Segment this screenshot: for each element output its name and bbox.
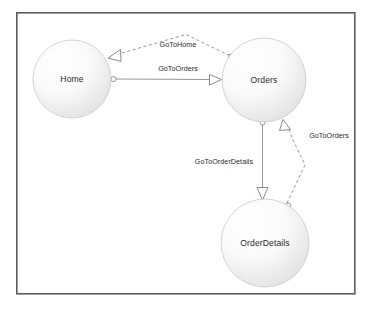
edge-orders-to-orderdetails[interactable]: GoToOrderDetails	[195, 120, 268, 200]
edge-label-gotohome: GoToHome	[160, 40, 197, 49]
edge-arrowhead-icon	[108, 50, 121, 62]
node-orders-label: Orders	[251, 75, 278, 85]
edge-path-dashed	[287, 129, 305, 203]
node-home-label: Home	[60, 74, 83, 84]
edge-orders-to-home[interactable]: GoToHome	[108, 35, 234, 62]
edge-home-to-orders[interactable]: GoToOrders	[111, 64, 222, 85]
edge-label-gotoorders-right: GoToOrders	[309, 131, 349, 140]
node-orderdetails[interactable]: OrderDetails	[221, 199, 309, 287]
edge-label-gotoorders-top: GoToOrders	[158, 64, 198, 73]
edge-path-solid	[116, 79, 210, 80]
state-diagram: GoToHome GoToOrders GoToOrderDetails GoT…	[0, 0, 372, 311]
edge-arrowhead-icon	[280, 120, 291, 131]
edge-source-circle-icon	[111, 77, 116, 82]
edge-orderdetails-to-orders[interactable]: GoToOrders	[280, 120, 350, 209]
diagram-canvas: GoToHome GoToOrders GoToOrderDetails GoT…	[0, 0, 372, 311]
edge-arrowhead-icon	[257, 188, 268, 201]
edge-label-gotoorderdetails: GoToOrderDetails	[195, 157, 254, 166]
node-orderdetails-label: OrderDetails	[240, 238, 289, 248]
edge-arrowhead-icon	[210, 75, 222, 86]
node-home[interactable]: Home	[33, 40, 111, 118]
node-orders[interactable]: Orders	[222, 38, 306, 122]
